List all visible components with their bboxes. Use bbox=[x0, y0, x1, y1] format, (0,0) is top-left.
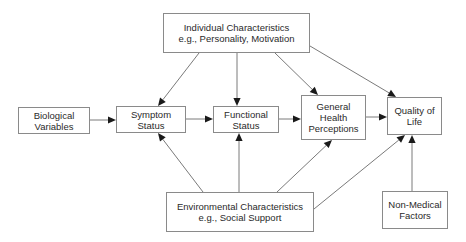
arrowhead-icon bbox=[387, 90, 396, 97]
arrowhead-icon bbox=[397, 135, 405, 143]
edge-environmental-to-functional bbox=[235, 133, 242, 192]
node-line: Status bbox=[138, 120, 165, 131]
node-non-medical-factors: Non-Medical Factors bbox=[382, 191, 448, 229]
arrowhead-icon bbox=[379, 113, 387, 120]
node-line: e.g., Personality, Motivation bbox=[179, 33, 295, 44]
edge-line bbox=[275, 53, 312, 89]
edge-symptom-to-functional bbox=[186, 115, 213, 122]
edge-individual-to-quality-of-life bbox=[310, 46, 396, 97]
node-line: e.g., Social Support bbox=[199, 212, 282, 223]
node-line: Status bbox=[233, 120, 260, 131]
edge-line bbox=[277, 145, 326, 192]
node-line: Variables bbox=[35, 121, 74, 132]
edge-general-health-to-quality-of-life bbox=[366, 113, 387, 120]
edge-environmental-to-general-health bbox=[277, 140, 332, 192]
arrowhead-icon bbox=[293, 115, 301, 122]
node-line: Functional bbox=[224, 109, 268, 120]
node-individual-characteristics: Individual Characteristics e.g., Persona… bbox=[163, 13, 310, 53]
node-line: Quality of bbox=[394, 105, 434, 116]
edge-individual-to-general-health bbox=[275, 53, 318, 95]
node-line: Factors bbox=[399, 210, 431, 221]
edge-non-medical-to-quality-of-life bbox=[408, 135, 415, 191]
edge-individual-to-symptom bbox=[158, 53, 199, 106]
node-symptom-status: Symptom Status bbox=[116, 106, 186, 133]
arrowhead-icon bbox=[235, 133, 242, 141]
node-line: Health bbox=[320, 112, 347, 123]
node-line: Non-Medical bbox=[388, 199, 441, 210]
edge-functional-to-general-health bbox=[279, 115, 301, 122]
edge-line bbox=[163, 139, 203, 192]
node-functional-status: Functional Status bbox=[213, 106, 279, 133]
node-line: Symptom bbox=[131, 109, 171, 120]
arrowhead-icon bbox=[158, 97, 166, 106]
edge-line bbox=[163, 53, 199, 100]
edge-line bbox=[310, 46, 389, 93]
edge-individual-to-functional bbox=[233, 53, 240, 106]
node-line: Perceptions bbox=[308, 123, 358, 134]
node-line: Environmental Characteristics bbox=[177, 201, 303, 212]
arrowhead-icon bbox=[158, 133, 166, 142]
arrowhead-icon bbox=[108, 116, 116, 123]
node-line: Individual Characteristics bbox=[184, 22, 290, 33]
node-general-health-perceptions: General Health Perceptions bbox=[301, 95, 366, 140]
arrowhead-icon bbox=[408, 135, 415, 143]
node-environmental-characteristics: Environmental Characteristics e.g., Soci… bbox=[166, 192, 314, 232]
node-line: General bbox=[317, 101, 351, 112]
node-quality-of-life: Quality of Life bbox=[387, 97, 442, 135]
node-line: Biological bbox=[34, 110, 75, 121]
arrowhead-icon bbox=[205, 115, 213, 122]
edge-biological-to-symptom bbox=[90, 116, 116, 123]
edge-environmental-to-symptom bbox=[158, 133, 203, 192]
node-biological-variables: Biological Variables bbox=[18, 107, 90, 134]
node-line: Life bbox=[407, 116, 422, 127]
arrowhead-icon bbox=[233, 98, 240, 106]
